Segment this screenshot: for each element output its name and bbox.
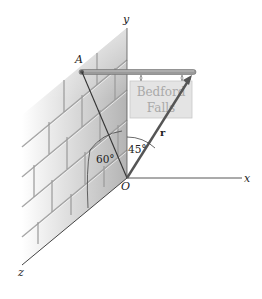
- y-axis-label: y: [122, 13, 130, 26]
- sign-board: Bedford Falls: [130, 75, 192, 118]
- point-a-label: A: [74, 53, 83, 66]
- vector-diagram: y z x Bedford Falls A r 60° 45° O: [0, 0, 262, 299]
- angle-45-label: 45°: [128, 143, 147, 155]
- angle-60-label: 60°: [96, 153, 115, 165]
- x-axis-label: x: [244, 172, 251, 185]
- support-rod: [79, 70, 196, 75]
- z-axis-label: z: [17, 266, 24, 279]
- vector-r-label: r: [160, 127, 166, 138]
- origin-label: O: [121, 180, 130, 193]
